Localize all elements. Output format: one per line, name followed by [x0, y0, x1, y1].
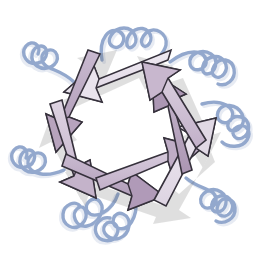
loop-coil — [186, 178, 237, 224]
loop-coil — [22, 43, 74, 84]
beta-barrel-illustration — [0, 0, 264, 263]
protein-diagram-figure: Beta-barrel protein topology diagram bet… — [0, 0, 264, 263]
